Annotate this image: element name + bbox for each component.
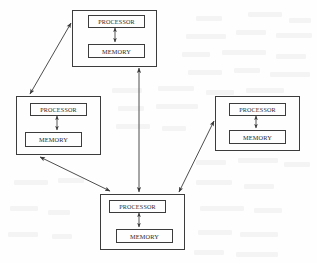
link-left-node-to-bottom-node xyxy=(40,157,110,191)
bleedthrough-mark xyxy=(238,158,278,163)
node-top-memory-box: MEMORY xyxy=(88,44,145,58)
diagram-canvas: PROCESSORMEMORYPROCESSORMEMORYPROCESSORM… xyxy=(0,0,317,263)
node-top-memory-label: MEMORY xyxy=(102,48,131,55)
bleedthrough-mark xyxy=(236,30,266,35)
node-bottom-processor-box: PROCESSOR xyxy=(109,200,166,213)
node-bottom: PROCESSORMEMORY xyxy=(100,194,185,250)
bleedthrough-mark xyxy=(234,68,260,73)
bleedthrough-mark xyxy=(182,52,210,57)
node-bottom-processor-label: PROCESSOR xyxy=(119,204,156,210)
bleedthrough-mark xyxy=(10,206,38,211)
bleedthrough-mark xyxy=(188,70,222,75)
bleedthrough-mark xyxy=(244,184,274,189)
bleedthrough-mark xyxy=(222,50,266,55)
node-bottom-memory-label: MEMORY xyxy=(130,233,159,240)
node-top: PROCESSORMEMORY xyxy=(72,10,157,67)
bleedthrough-mark xyxy=(254,208,282,213)
node-top-processor-box: PROCESSOR xyxy=(88,15,145,28)
bleedthrough-mark xyxy=(248,12,282,17)
bleedthrough-mark xyxy=(116,124,150,129)
node-right-memory-label: MEMORY xyxy=(243,134,272,141)
link-top-node-to-left-node xyxy=(30,23,71,94)
node-right-memory-box: MEMORY xyxy=(229,130,286,144)
bleedthrough-mark xyxy=(270,72,310,77)
node-left: PROCESSORMEMORY xyxy=(16,96,101,155)
bleedthrough-mark xyxy=(276,54,306,59)
bleedthrough-mark xyxy=(112,88,142,93)
bleedthrough-mark xyxy=(200,206,244,211)
bleedthrough-mark xyxy=(52,234,72,239)
bleedthrough-mark xyxy=(48,210,70,215)
node-bottom-memory-box: MEMORY xyxy=(116,229,173,243)
bleedthrough-mark xyxy=(284,162,310,167)
bleedthrough-mark xyxy=(289,18,311,23)
node-right-processor-label: PROCESSOR xyxy=(239,107,276,113)
bleedthrough-mark xyxy=(158,86,194,91)
node-right: PROCESSORMEMORY xyxy=(215,96,300,151)
link-right-node-to-bottom-node xyxy=(179,121,214,192)
node-left-processor-label: PROCESSOR xyxy=(40,107,77,113)
bleedthrough-mark xyxy=(186,34,226,39)
bleedthrough-mark xyxy=(8,232,38,237)
bleedthrough-mark xyxy=(14,180,48,185)
node-left-memory-box: MEMORY xyxy=(25,132,82,147)
bleedthrough-mark xyxy=(198,230,232,235)
bleedthrough-mark xyxy=(276,33,312,38)
bleedthrough-mark xyxy=(236,252,278,257)
node-left-processor-box: PROCESSOR xyxy=(30,103,87,116)
bleedthrough-mark xyxy=(156,104,198,109)
bleedthrough-mark xyxy=(118,106,144,111)
bleedthrough-mark xyxy=(194,250,224,255)
bleedthrough-mark xyxy=(196,180,232,185)
node-right-processor-box: PROCESSOR xyxy=(229,103,286,116)
bleedthrough-mark xyxy=(246,88,284,93)
bleedthrough-mark xyxy=(206,90,234,95)
bleedthrough-mark xyxy=(240,232,278,237)
bleedthrough-mark xyxy=(162,126,186,131)
node-top-processor-label: PROCESSOR xyxy=(98,19,135,25)
bleedthrough-mark xyxy=(196,160,226,165)
bleedthrough-mark xyxy=(196,16,222,21)
bleedthrough-mark xyxy=(58,178,84,183)
node-left-memory-label: MEMORY xyxy=(39,136,68,143)
